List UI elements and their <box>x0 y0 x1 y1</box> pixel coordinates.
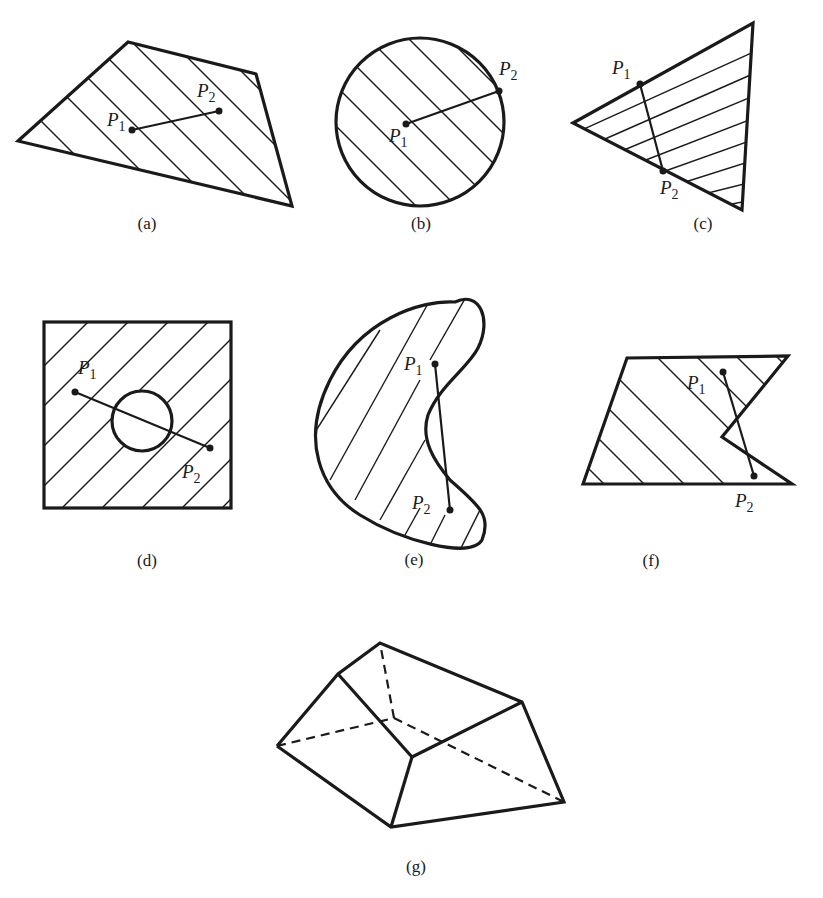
panel-g: (g) <box>277 643 564 876</box>
label-p2: P2 <box>181 461 201 486</box>
segment-p1-p2 <box>132 111 219 130</box>
polyhedron-outline <box>277 643 564 827</box>
point-p2 <box>216 108 223 115</box>
caption-c: (c) <box>694 214 713 233</box>
label-p2: P2 <box>411 492 431 517</box>
panel-f: P1 P2 (f) <box>560 330 800 570</box>
square-outline <box>44 322 231 508</box>
label-p1: P1 <box>388 125 408 150</box>
hatching <box>310 290 490 550</box>
point-p2 <box>207 445 214 452</box>
hidden-edge <box>394 718 564 802</box>
point-p1 <box>637 81 644 88</box>
label-p2: P2 <box>734 490 754 515</box>
label-p1: P1 <box>611 57 631 82</box>
hole-outline <box>112 391 172 451</box>
visible-edge <box>412 702 522 757</box>
label-p2: P2 <box>498 58 518 83</box>
caption-f: (f) <box>643 551 660 570</box>
hatching <box>20 300 260 530</box>
panel-d: P1 P2 (d) <box>20 300 260 570</box>
panel-b: P1 P2 (b) <box>300 20 540 233</box>
label-p1: P1 <box>686 372 706 397</box>
disk-outline <box>336 38 504 206</box>
point-p1 <box>432 361 439 368</box>
hidden-edge <box>380 643 394 718</box>
visible-edge <box>391 757 412 827</box>
panel-e: P1 P2 (e) <box>310 290 490 569</box>
segment-p1-p2 <box>406 91 499 124</box>
panel-c: P1 P2 (c) <box>560 23 780 233</box>
region-outline <box>316 299 486 548</box>
segment-p1-p2 <box>723 372 754 476</box>
point-p1 <box>720 369 727 376</box>
label-p1: P1 <box>77 357 97 382</box>
point-p1 <box>129 127 136 134</box>
label-p2: P2 <box>659 177 679 202</box>
caption-a: (a) <box>138 214 157 233</box>
visible-edge <box>338 674 412 757</box>
label-p1: P1 <box>403 353 423 378</box>
point-p1 <box>403 121 410 128</box>
caption-e: (e) <box>405 550 424 569</box>
caption-d: (d) <box>137 551 157 570</box>
point-p2 <box>660 168 667 175</box>
point-p2 <box>751 473 758 480</box>
point-p2 <box>496 88 503 95</box>
caption-b: (b) <box>411 214 431 233</box>
point-p2 <box>447 507 454 514</box>
label-p2: P2 <box>196 80 216 105</box>
point-p1 <box>72 389 79 396</box>
panel-a: P1 P2 (a) <box>0 0 440 233</box>
hidden-edge <box>277 718 394 746</box>
convex-sets-diagram: P1 P2 (a) P1 P2 (b) <box>0 0 823 898</box>
caption-g: (g) <box>406 857 426 876</box>
